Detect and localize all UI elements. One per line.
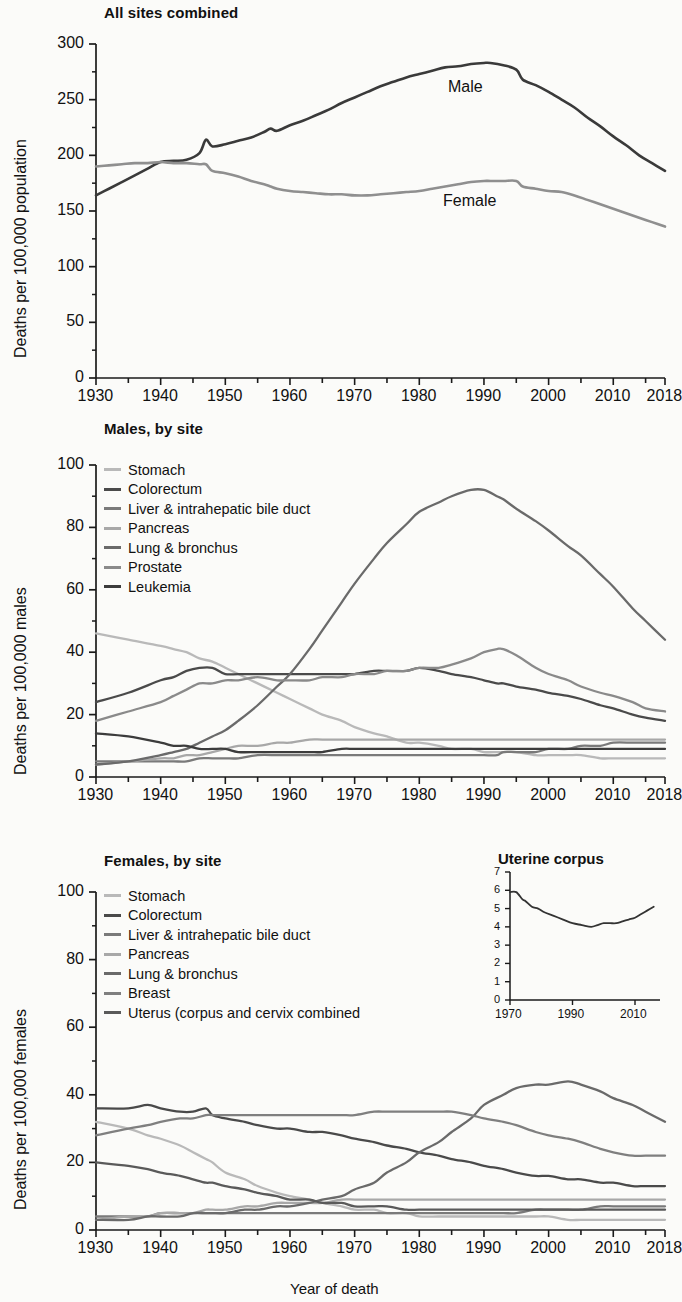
ytick-label: 40: [34, 642, 84, 660]
xtick-label: 1960: [272, 1239, 308, 1257]
legend-item[interactable]: Colorectum: [104, 480, 310, 500]
xtick-label: 1990: [466, 387, 502, 405]
xtick-label: 2010: [595, 1239, 631, 1257]
ytick-label: 80: [34, 950, 84, 968]
xtick-label: 2000: [530, 786, 566, 804]
inset-ytick-label: 4: [494, 920, 500, 932]
xtick-label: 1940: [142, 387, 178, 405]
ytick-label: 50: [34, 312, 84, 330]
legend-label: Lung & bronchus: [128, 541, 238, 556]
series-label-male: Male: [448, 78, 483, 96]
xtick-label: 2000: [530, 1239, 566, 1257]
legend-label: Prostate: [128, 560, 182, 575]
series-line-male: [96, 63, 665, 196]
ytick-label: 20: [34, 705, 84, 723]
xtick-label: 2018: [647, 387, 682, 405]
inset-xtick-label: 2010: [620, 1007, 647, 1021]
xtick-label: 2010: [595, 387, 631, 405]
ytick-label: 80: [34, 517, 84, 535]
xtick-label: 1980: [401, 1239, 437, 1257]
legend-item[interactable]: Pancreas: [104, 519, 310, 539]
ytick-label: 0: [34, 368, 84, 386]
ytick-label: 100: [34, 455, 84, 473]
xtick-label: 1990: [466, 1239, 502, 1257]
xtick-label: 2000: [530, 387, 566, 405]
legend-swatch-icon: [104, 507, 121, 510]
inset-ytick-label: 6: [494, 883, 500, 895]
ytick-label: 200: [34, 145, 84, 163]
xtick-label: 1970: [336, 786, 372, 804]
legend-males: StomachColorectumLiver & intrahepatic bi…: [104, 460, 310, 597]
ytick-label: 100: [34, 882, 84, 900]
xtick-label: 1970: [336, 387, 372, 405]
xtick-label: 1960: [272, 387, 308, 405]
panel-male-plot: [0, 420, 680, 840]
ytick-label: 60: [34, 580, 84, 598]
xtick-label: 1940: [142, 1239, 178, 1257]
panel-males-by-site: Males, by site Deaths per 100,000 males …: [0, 420, 680, 840]
legend-label: Stomach: [128, 463, 185, 478]
xtick-label: 2018: [647, 1239, 682, 1257]
xtick-label: 1930: [78, 387, 114, 405]
inset-ytick-label: 5: [494, 902, 500, 914]
legend-swatch-icon: [104, 488, 121, 491]
ytick-label: 150: [34, 201, 84, 219]
series-line-colorectum: [96, 667, 665, 721]
ytick-label: 0: [34, 1220, 84, 1238]
panel-all-sites-combined: All sites combined Deaths per 100,000 po…: [0, 0, 680, 420]
legend-item[interactable]: Stomach: [104, 460, 310, 480]
inset-ytick-label: 3: [494, 938, 500, 950]
inset-ytick-label: 0: [494, 993, 500, 1005]
ytick-label: 100: [34, 257, 84, 275]
series-label-female: Female: [443, 192, 496, 210]
inset-ytick-label: 7: [494, 865, 500, 877]
ytick-label: 250: [34, 90, 84, 108]
legend-swatch-icon: [104, 468, 121, 471]
xtick-label: 1960: [272, 786, 308, 804]
xtick-label: 1930: [78, 1239, 114, 1257]
legend-swatch-icon: [104, 546, 121, 549]
panel-all-plot: [0, 0, 680, 420]
legend-label: Liver & intrahepatic bile duct: [128, 502, 310, 517]
legend-label: Colorectum: [128, 482, 202, 497]
inset-xtick-label: 1990: [558, 1007, 585, 1021]
ytick-label: 300: [34, 34, 84, 52]
xtick-label: 1990: [466, 786, 502, 804]
xtick-label: 1940: [142, 786, 178, 804]
xtick-label: 2010: [595, 786, 631, 804]
ytick-label: 0: [34, 767, 84, 785]
inset-xtick-label: 1970: [495, 1007, 522, 1021]
legend-item[interactable]: Leukemia: [104, 577, 310, 597]
xtick-label: 1970: [336, 1239, 372, 1257]
xtick-label: 1950: [207, 786, 243, 804]
series-line-uterine-corpus: [510, 892, 654, 927]
legend-label: Pancreas: [128, 521, 189, 536]
series-line-female: [96, 162, 665, 227]
xaxis-caption: Year of death: [290, 1280, 379, 1297]
xtick-label: 2018: [647, 786, 682, 804]
legend-swatch-icon: [104, 585, 121, 588]
legend-item[interactable]: Lung & bronchus: [104, 538, 310, 558]
ytick-label: 40: [34, 1085, 84, 1103]
legend-swatch-icon: [104, 566, 121, 569]
xtick-label: 1950: [207, 1239, 243, 1257]
inset-uterine-corpus-plot: [0, 840, 680, 1302]
inset-ytick-label: 2: [494, 956, 500, 968]
ytick-label: 20: [34, 1152, 84, 1170]
xtick-label: 1950: [207, 387, 243, 405]
inset-ytick-label: 1: [494, 975, 500, 987]
xtick-label: 1980: [401, 387, 437, 405]
series-line-prostate: [96, 648, 665, 720]
legend-item[interactable]: Prostate: [104, 558, 310, 578]
xtick-label: 1980: [401, 786, 437, 804]
legend-label: Leukemia: [128, 580, 191, 595]
ytick-label: 60: [34, 1017, 84, 1035]
legend-item[interactable]: Liver & intrahepatic bile duct: [104, 499, 310, 519]
panel-females-by-site: Females, by site Deaths per 100,000 fema…: [0, 840, 680, 1302]
xtick-label: 1930: [78, 786, 114, 804]
legend-swatch-icon: [104, 527, 121, 530]
